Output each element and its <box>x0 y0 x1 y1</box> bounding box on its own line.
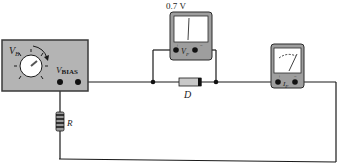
negative-terminal[interactable] <box>57 79 63 85</box>
voltmeter: 0.7 V + − VF <box>166 1 212 60</box>
positive-terminal[interactable] <box>75 79 81 85</box>
svg-text:+: + <box>278 74 281 79</box>
resistor-label: R <box>66 118 73 128</box>
junction-right <box>214 80 219 85</box>
bias-supply: VB VBIAS <box>2 40 88 91</box>
junction-left <box>151 80 156 85</box>
voltmeter-reading: 0.7 V <box>166 1 186 11</box>
resistor: R <box>56 112 73 131</box>
diode: D <box>179 78 202 100</box>
diode-label: D <box>183 89 192 100</box>
svg-text:−: − <box>294 74 297 79</box>
ammeter: + − IF <box>271 44 304 89</box>
circuit-diagram: VB VBIAS D 0.7 V <box>0 0 338 166</box>
svg-text:−: − <box>200 43 203 48</box>
